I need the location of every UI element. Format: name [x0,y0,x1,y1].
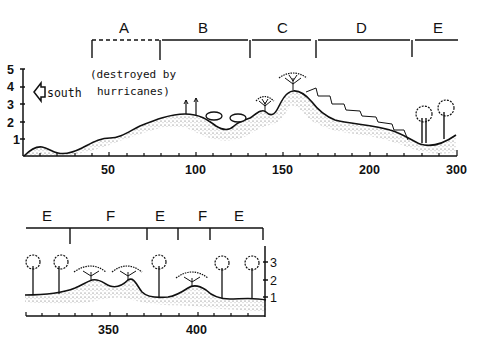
bottom-zone-brackets [26,228,263,244]
top-y-axis [20,69,25,156]
y2-tick-2: 2 [270,274,277,288]
x2-tick-350: 350 [98,323,119,337]
zone-label-c: C [277,19,288,36]
zone-label-e: E [433,19,443,36]
y-tick-3: 3 [7,98,14,112]
zone-label-e1: E [42,207,52,224]
y-tick-2: 2 [7,116,14,130]
x-tick-200: 200 [359,163,380,177]
zone-a-note-line2: hurricanes) [97,85,170,98]
south-arrow-icon [34,83,45,101]
bottom-x-axis [26,312,265,316]
bottom-terrain [25,279,266,312]
zone-a-note-line1: (destroyed by [90,68,176,81]
zone-e-trees-icon [416,100,454,143]
x-tick-300: 300 [446,163,467,177]
profile-diagram: A B C D E (destroyed by hurricanes) sout… [0,0,486,345]
zone-label-b: B [198,19,208,36]
zone-label-a: A [119,19,129,36]
zone-label-f1: F [106,207,115,224]
zone-label-e3: E [234,207,244,224]
y-tick-1: 1 [13,133,20,147]
zone-label-d: D [356,19,367,36]
y-tick-5: 5 [7,63,14,77]
x-tick-150: 150 [272,163,293,177]
direction-label: south [47,86,82,100]
y-tick-4: 4 [7,80,14,94]
y2-tick-1: 1 [270,291,277,305]
top-zone-brackets [92,40,458,60]
x-tick-100: 100 [185,163,206,177]
x2-tick-400: 400 [186,323,207,337]
y2-tick-3: 3 [270,256,277,270]
zone-label-e2: E [155,207,165,224]
x-tick-50: 50 [101,163,115,177]
zone-label-f2: F [198,207,207,224]
